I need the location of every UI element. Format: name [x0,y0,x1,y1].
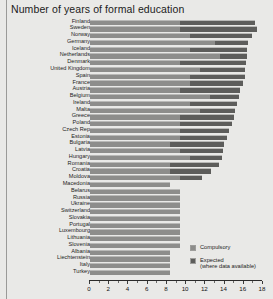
bar-segment-compulsory [90,94,210,99]
bar-track [90,175,270,180]
bar-row: Norway [0,33,273,40]
bar-row: Iceland [0,46,273,53]
x-axis-tick [89,281,90,284]
page-title: Number of years of formal education [11,3,184,15]
bar-track [90,60,270,65]
x-axis-tick-label: 4 [126,285,129,292]
bar-segment-expected [180,26,257,31]
bar-segment-compulsory [90,168,170,173]
bar-segment-compulsory [90,135,180,140]
bar-track [90,223,270,228]
bar-track [90,33,270,38]
bar-segment-compulsory [90,236,180,241]
bar-segment-compulsory [90,87,180,92]
bar-segment-expected [200,67,245,72]
bar-segment-compulsory [90,108,200,113]
bar-segment-expected [180,175,202,180]
bar-segment-expected [170,141,224,146]
bar-track [90,40,270,45]
bar-segment-expected [210,94,239,99]
bar-row: Finland [0,19,273,26]
bar-row: Moldova [0,175,273,182]
bar-track [90,26,270,31]
bar-row: Lithuania [0,236,273,243]
bar-row: France [0,80,273,87]
bar-segment-expected [190,101,237,106]
x-axis-minor-tick [195,281,196,283]
bar-segment-compulsory [90,114,180,119]
bar-segment-compulsory [90,101,190,106]
bar-row-label: Turkey [73,268,90,275]
bar-track [90,114,270,119]
bar-track [90,101,270,106]
x-axis-tick [243,281,244,284]
bar-row: Malta [0,107,273,114]
x-axis-tick-label: 14 [220,285,227,292]
bar-segment-compulsory [90,40,215,45]
bar-track [90,128,270,133]
x-axis-tick [262,281,263,284]
bar-segment-expected [180,60,246,65]
bar-track [90,216,270,221]
bar-segment-compulsory [90,250,170,255]
bar-segment-compulsory [90,26,180,31]
x-axis-tick-label: 2 [106,285,109,292]
bar-track [90,202,270,207]
bar-segment-expected [220,53,247,58]
bar-segment-compulsory [90,216,180,221]
bar-segment-compulsory [90,148,180,153]
bar-track [90,80,270,85]
bar-segment-compulsory [90,229,180,234]
plot-area: FinlandSwedenNorwayGermanyIcelandNetherl… [0,19,273,281]
legend-swatch-icon [190,245,196,251]
bar-row: Belarus [0,188,273,195]
bar-row: Romania [0,161,273,168]
bar-segment-expected [170,168,211,173]
bar-track [90,141,270,146]
bar-segment-compulsory [90,209,180,214]
bar-row: Russia [0,195,273,202]
bar-segment-expected [190,47,247,52]
bar-track [90,162,270,167]
bar-track [90,148,270,153]
bar-track [90,108,270,113]
bar-segment-compulsory [90,141,170,146]
x-axis-minor-tick [137,281,138,283]
bar-segment-expected [215,40,248,45]
bar-track [90,168,270,173]
bar-track [90,67,270,72]
chart-legend: CompulsoryExpected (where data available… [190,244,270,275]
x-axis-tick-label: 6 [145,285,148,292]
bar-segment-expected [190,80,243,85]
x-axis-minor-tick [176,281,177,283]
bar-segment-compulsory [90,195,180,200]
bar-row: Spain [0,73,273,80]
bar-segment-compulsory [90,155,190,160]
bar-track [90,195,270,200]
x-axis-minor-tick [252,281,253,283]
bar-segment-compulsory [90,162,170,167]
x-axis-tick [147,281,148,284]
bar-segment-compulsory [90,33,190,38]
bar-segment-compulsory [90,256,170,261]
x-axis-tick [127,281,128,284]
x-axis-tick [204,281,205,284]
x-axis-tick [166,281,167,284]
bar-row: Ireland [0,100,273,107]
x-axis-tick [185,281,186,284]
x-axis-tick-label: 0 [87,285,90,292]
bar-row: Hungary [0,154,273,161]
bar-segment-compulsory [90,189,180,194]
bar-segment-compulsory [90,263,170,268]
bar-segment-expected [180,128,229,133]
bar-row: Czech Rep [0,127,273,134]
bar-row: Belgium [0,93,273,100]
bar-track [90,236,270,241]
bar-row: Macedonia [0,181,273,188]
bar-segment-expected [180,148,223,153]
bar-row: Latvia [0,148,273,155]
bar-segment-expected [190,33,252,38]
bar-row: Estonia [0,134,273,141]
bar-track [90,189,270,194]
bar-segment-compulsory [90,243,180,248]
